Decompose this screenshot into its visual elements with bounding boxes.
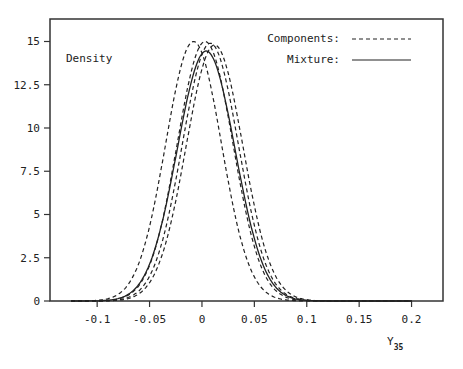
x-axis-label-subscript: 35	[394, 343, 404, 352]
y-tick-label: 15	[27, 35, 40, 48]
curves	[71, 42, 412, 302]
density-chart: 02.557.51012.515 -0.1-0.0500.050.10.150.…	[0, 0, 463, 369]
x-tick-label: 0.1	[297, 313, 317, 326]
y-tick-label: 5	[33, 208, 40, 221]
legend-components-label: Components:	[267, 32, 340, 45]
x-tick-label: -0.1	[84, 313, 111, 326]
component-curve	[71, 43, 412, 301]
x-tick-label: 0.2	[402, 313, 422, 326]
legend-mixture-label: Mixture:	[287, 53, 340, 66]
y-tick-label: 7.5	[20, 165, 40, 178]
component-curve	[71, 42, 412, 302]
y-tick-label: 10	[27, 122, 40, 135]
y-axis-label: Density	[66, 52, 113, 65]
x-tick-label: 0	[199, 313, 206, 326]
component-curve	[71, 45, 412, 301]
component-curve	[71, 42, 412, 302]
mixture-curve	[71, 51, 412, 301]
y-axis: 02.557.51012.515	[14, 35, 51, 308]
x-axis-label: Y35	[387, 335, 403, 352]
y-tick-label: 0	[33, 295, 40, 308]
y-tick-label: 2.5	[20, 252, 40, 265]
x-tick-label: 0.05	[241, 313, 268, 326]
x-tick-label: 0.15	[346, 313, 373, 326]
legend: Components: Mixture:	[267, 32, 411, 66]
x-axis: -0.1-0.0500.050.10.150.2	[84, 301, 422, 326]
y-tick-label: 12.5	[14, 79, 41, 92]
x-tick-label: -0.05	[133, 313, 166, 326]
